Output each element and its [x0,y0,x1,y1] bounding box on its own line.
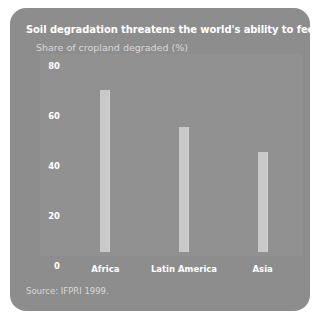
y-tick-label: 60 [24,111,60,121]
bar-slot [223,52,302,252]
x-tick-label: Latin America [151,264,217,274]
bar-slot [66,52,145,252]
x-tick-label: Africa [91,264,119,274]
plot-area [66,52,302,252]
chart-title: Soil degradation threatens the world's a… [26,24,302,36]
bar[interactable] [179,127,189,252]
y-axis: 020406080 [24,52,60,262]
bar-slot [145,52,224,252]
y-tick-label: 80 [24,61,60,71]
bar[interactable] [100,90,110,253]
figure-root: Soil degradation threatens the world's a… [0,0,319,321]
x-tick-label: Asia [253,264,273,274]
chart-panel: Soil degradation threatens the world's a… [10,8,310,311]
source-note: Source: IFPRI 1999. [26,286,109,296]
x-axis: AfricaLatin AmericaAsia [66,264,302,278]
y-tick-label: 40 [24,161,60,171]
bar[interactable] [258,152,268,252]
y-tick-label: 20 [24,211,60,221]
y-tick-label: 0 [24,261,60,271]
